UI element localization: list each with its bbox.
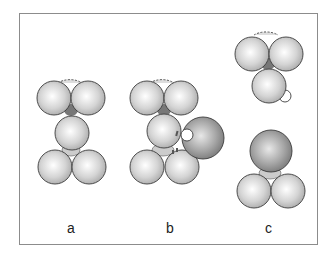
large-dark-sphere-c <box>250 130 292 172</box>
sphere-packing-diagram <box>0 0 334 257</box>
sphere-a-middle <box>55 116 89 150</box>
panel-b <box>130 80 224 184</box>
sphere-a-top-right <box>71 81 105 115</box>
small-sphere-b <box>181 129 193 141</box>
panel-label-b: b <box>166 220 174 236</box>
sphere-a-bottom-left <box>38 150 72 184</box>
panel-label-c: c <box>265 220 272 236</box>
panel-c-top <box>235 32 303 103</box>
panel-c-bottom <box>237 130 305 208</box>
sphere-a-top-left <box>37 81 71 115</box>
panel-a <box>37 80 106 184</box>
panel-label-a: a <box>67 220 75 236</box>
sphere-a-bottom-right <box>72 150 106 184</box>
